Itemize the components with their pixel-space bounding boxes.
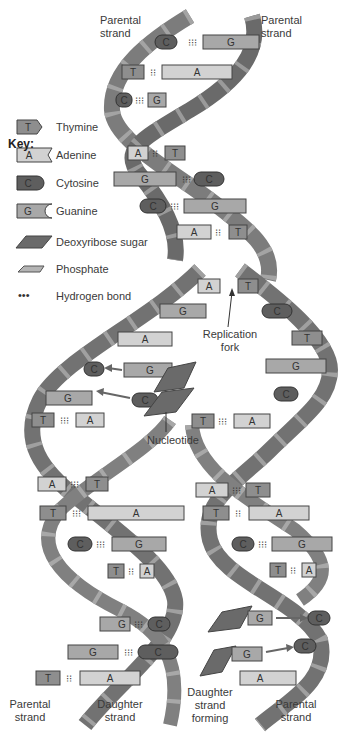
svg-text:⁝⁝: ⁝⁝ xyxy=(152,148,158,159)
svg-text:G: G xyxy=(89,647,97,658)
key-label-sugar: Deoxyribose sugar xyxy=(56,236,148,248)
svg-text:A: A xyxy=(49,479,56,490)
svg-text:G: G xyxy=(135,539,143,550)
label-bottom-parental-left: Parental strand xyxy=(0,698,60,724)
svg-text:⁝⁝⁝: ⁝⁝⁝ xyxy=(60,415,69,426)
svg-text:A: A xyxy=(249,416,256,427)
svg-text:T: T xyxy=(172,148,178,159)
svg-text:A: A xyxy=(133,508,140,519)
svg-text:C: C xyxy=(155,619,162,630)
svg-text:C: C xyxy=(205,174,212,185)
svg-text:T: T xyxy=(40,415,46,426)
svg-text:⁝⁝⁝: ⁝⁝⁝ xyxy=(124,647,133,658)
svg-text:A: A xyxy=(107,673,114,684)
svg-text:C: C xyxy=(315,613,322,624)
label-replication-fork: Replication fork xyxy=(200,328,260,354)
label-parental-strand-top-left: Parental strand xyxy=(100,14,141,40)
svg-text:T: T xyxy=(235,227,241,238)
svg-text:⁝⁝: ⁝⁝ xyxy=(290,565,296,576)
svg-text:⁝⁝⁝: ⁝⁝⁝ xyxy=(135,95,144,106)
svg-text:⁝⁝: ⁝⁝ xyxy=(128,566,134,577)
key-title: Key: xyxy=(8,137,34,151)
key-cytosine-symbol: C xyxy=(17,176,44,190)
svg-text:C: C xyxy=(273,306,280,317)
label-nucleotide: Nucleotide xyxy=(138,434,208,447)
svg-text:⁝⁝⁝: ⁝⁝⁝ xyxy=(188,37,197,48)
svg-text:T: T xyxy=(94,479,100,490)
key-hydrogen-bond-symbol: ••• xyxy=(18,289,30,301)
svg-text:T: T xyxy=(245,281,251,292)
key-label-hydrogen-bond: Hydrogen bond xyxy=(56,290,131,302)
incoming-nucleotides-left: G C xyxy=(96,362,196,432)
svg-text:A: A xyxy=(276,508,283,519)
svg-text:T: T xyxy=(45,673,51,684)
svg-text:T: T xyxy=(275,565,281,576)
key-phosphate-symbol xyxy=(18,266,44,272)
svg-text:G: G xyxy=(256,613,264,624)
svg-text:C: C xyxy=(76,539,83,550)
svg-text:A: A xyxy=(209,485,216,496)
svg-text:•••: ••• xyxy=(18,289,30,301)
svg-text:A: A xyxy=(257,673,264,684)
svg-text:A: A xyxy=(26,150,33,161)
svg-text:⁝⁝: ⁝⁝ xyxy=(235,508,241,519)
svg-text:G: G xyxy=(24,206,32,217)
svg-text:T: T xyxy=(200,416,206,427)
svg-text:T: T xyxy=(130,67,136,78)
svg-text:C: C xyxy=(90,364,97,375)
svg-text:T: T xyxy=(25,122,31,133)
svg-text:A: A xyxy=(206,281,213,292)
svg-text:⁝⁝⁝: ⁝⁝⁝ xyxy=(134,619,143,630)
key-sugar-symbol xyxy=(16,236,52,248)
svg-text:G: G xyxy=(153,95,161,106)
svg-text:⁝⁝⁝: ⁝⁝⁝ xyxy=(258,539,267,550)
svg-text:T: T xyxy=(50,508,56,519)
svg-text:⁝⁝: ⁝⁝ xyxy=(66,673,72,684)
key-label-thymine: Thymine xyxy=(56,121,98,133)
svg-text:C: C xyxy=(141,395,148,406)
key-label-phosphate: Phosphate xyxy=(56,263,109,275)
key-label-cytosine: Cytosine xyxy=(56,177,99,189)
label-parental-strand-top-right: Parental strand xyxy=(261,14,302,40)
svg-text:C: C xyxy=(154,647,161,658)
svg-text:T: T xyxy=(255,485,261,496)
svg-text:A: A xyxy=(135,148,142,159)
svg-text:C: C xyxy=(149,201,156,212)
svg-text:⁝⁝⁝: ⁝⁝⁝ xyxy=(170,201,179,212)
label-bottom-daughter-left: Daughter strand xyxy=(90,698,150,724)
svg-text:G: G xyxy=(227,37,235,48)
svg-text:G: G xyxy=(141,174,149,185)
svg-text:A: A xyxy=(87,415,94,426)
svg-text:⁝⁝⁝: ⁝⁝⁝ xyxy=(70,479,79,490)
svg-text:A: A xyxy=(306,565,313,576)
dna-replication-diagram: C ⁝⁝⁝ G T ⁝⁝ A C ⁝⁝⁝ G A ⁝⁝ T G ⁝⁝⁝ C xyxy=(0,0,352,737)
svg-text:G: G xyxy=(292,361,300,372)
key-label-adenine: Adenine xyxy=(56,149,96,161)
svg-text:⁝⁝⁝: ⁝⁝⁝ xyxy=(232,485,241,496)
svg-text:G: G xyxy=(179,306,187,317)
svg-text:A: A xyxy=(191,227,198,238)
svg-text:C: C xyxy=(24,178,31,189)
svg-text:A: A xyxy=(144,566,151,577)
svg-text:G: G xyxy=(211,201,219,212)
svg-text:T: T xyxy=(113,566,119,577)
svg-text:⁝⁝⁝: ⁝⁝⁝ xyxy=(96,539,105,550)
key-thymine-symbol: T xyxy=(17,120,42,134)
key-label-guanine: Guanine xyxy=(56,205,98,217)
key-guanine-symbol: G xyxy=(17,204,52,218)
svg-text:G: G xyxy=(118,619,126,630)
svg-text:C: C xyxy=(120,95,127,106)
svg-text:⁝⁝⁝: ⁝⁝⁝ xyxy=(182,174,191,185)
label-bottom-daughter-forming: Daughter strand forming xyxy=(180,686,240,725)
svg-text:G: G xyxy=(243,649,251,660)
svg-text:⁝⁝⁝: ⁝⁝⁝ xyxy=(72,508,81,519)
svg-text:G: G xyxy=(298,539,306,550)
svg-text:⁝⁝: ⁝⁝ xyxy=(215,227,221,238)
svg-text:G: G xyxy=(146,365,154,376)
svg-text:T: T xyxy=(304,333,310,344)
svg-text:C: C xyxy=(239,539,246,550)
svg-text:⁝⁝: ⁝⁝ xyxy=(150,67,156,78)
svg-text:G: G xyxy=(64,393,72,404)
svg-text:A: A xyxy=(194,67,201,78)
svg-text:C: C xyxy=(162,37,169,48)
